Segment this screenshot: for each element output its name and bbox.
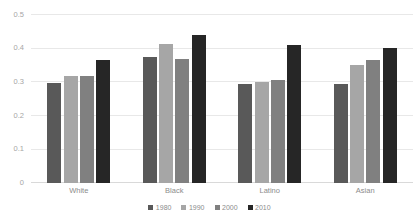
bar-slot xyxy=(64,14,78,183)
bar-slot xyxy=(192,14,206,183)
bar[interactable] xyxy=(383,48,397,182)
legend-item[interactable]: 1980 xyxy=(148,204,171,211)
bar[interactable] xyxy=(96,60,110,183)
bar-group xyxy=(318,14,414,183)
bar[interactable] xyxy=(238,84,252,182)
legend-swatch-icon xyxy=(181,205,186,210)
legend-label: 1980 xyxy=(156,204,172,211)
bar[interactable] xyxy=(366,60,380,183)
y-axis-tick-label: 0.1 xyxy=(0,145,24,153)
legend-item[interactable]: 1990 xyxy=(181,204,204,211)
bar-slot xyxy=(334,14,348,183)
bar[interactable] xyxy=(334,84,348,182)
x-axis-category-labels: White Black Latino Asian xyxy=(31,186,413,195)
bar[interactable] xyxy=(143,57,157,183)
plot-area xyxy=(31,14,413,183)
bar-slot xyxy=(287,14,301,183)
y-axis-tick-label: 0 xyxy=(0,179,24,187)
bar-slot xyxy=(350,14,364,183)
legend-label: 2000 xyxy=(222,204,238,211)
bar[interactable] xyxy=(175,59,189,182)
x-axis-category-label: White xyxy=(31,186,127,195)
bar-slot xyxy=(80,14,94,183)
bar-group xyxy=(31,14,127,183)
bar-chart: 0.5 0.4 0.3 0.2 0.1 0 White Black Latino… xyxy=(0,0,419,224)
bar-slot xyxy=(175,14,189,183)
legend-label: 2010 xyxy=(255,204,271,211)
bar-slot xyxy=(159,14,173,183)
bar[interactable] xyxy=(159,44,173,183)
y-axis-tick-label: 0.4 xyxy=(0,44,24,52)
bar-slot xyxy=(238,14,252,183)
bar-slot xyxy=(255,14,269,183)
bar[interactable] xyxy=(64,76,78,183)
bar[interactable] xyxy=(287,45,301,183)
bar-groups xyxy=(31,14,413,183)
bar-group xyxy=(127,14,223,183)
bar[interactable] xyxy=(271,80,285,182)
legend-swatch-icon xyxy=(248,205,253,210)
bar[interactable] xyxy=(192,35,206,182)
x-axis-category-label: Asian xyxy=(318,186,414,195)
x-axis-category-label: Latino xyxy=(222,186,318,195)
legend-item[interactable]: 2000 xyxy=(215,204,238,211)
bar[interactable] xyxy=(80,76,94,183)
bar-slot xyxy=(47,14,61,183)
bar[interactable] xyxy=(350,65,364,183)
bar[interactable] xyxy=(47,83,61,182)
bar-group xyxy=(222,14,318,183)
legend-swatch-icon xyxy=(148,205,153,210)
bar-slot xyxy=(366,14,380,183)
bar-slot xyxy=(271,14,285,183)
y-axis-tick-label: 0.3 xyxy=(0,78,24,86)
y-axis-tick-label: 0.5 xyxy=(0,11,24,19)
chart-legend: 1980199020002010 xyxy=(0,204,419,211)
x-axis-category-label: Black xyxy=(127,186,223,195)
bar-slot xyxy=(383,14,397,183)
bar[interactable] xyxy=(255,82,269,183)
legend-label: 1990 xyxy=(189,204,205,211)
bar-slot xyxy=(143,14,157,183)
bar-slot xyxy=(96,14,110,183)
y-axis-tick-label: 0.2 xyxy=(0,112,24,120)
legend-item[interactable]: 2010 xyxy=(248,204,271,211)
legend-swatch-icon xyxy=(215,205,220,210)
